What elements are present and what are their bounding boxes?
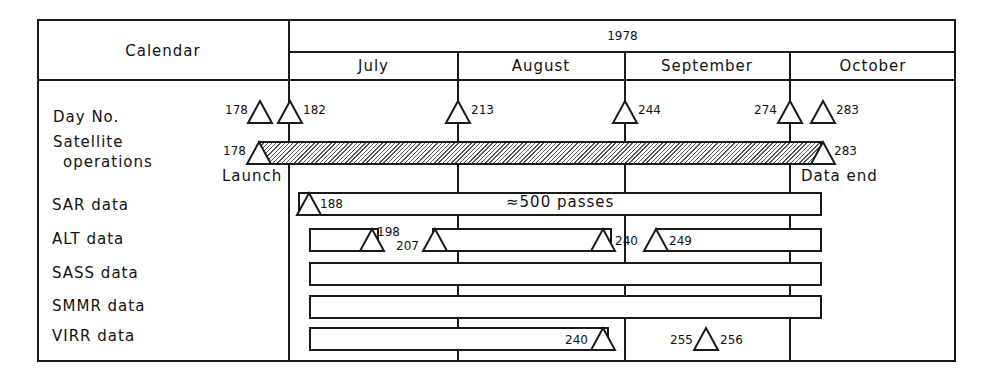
triangle-marker-icon [590,327,616,351]
month-july: July [290,59,457,74]
alt-gap2-start: 240 [615,235,638,247]
day-label-178: 178 [225,104,248,116]
triangle-marker-icon [643,228,669,252]
triangle-marker-icon [247,100,273,124]
day-label-274: 274 [754,104,777,116]
row-label-operations: operations [63,155,153,170]
day-label-244: 244 [638,104,661,116]
triangle-marker-icon [422,228,448,252]
triangle-marker-icon [810,100,836,124]
sass-data-bar [309,262,822,286]
alt-data-bar-2 [432,228,612,252]
day-label-213: 213 [471,104,494,116]
triangle-marker-icon [693,327,719,351]
alt-gap1-end: 207 [396,240,419,252]
row-label-sar: SAR data [52,198,129,213]
triangle-marker-icon [590,228,616,252]
triangle-marker-icon [277,100,303,124]
triangle-marker-icon [296,192,322,216]
row-label-satellite: Satellite [53,135,123,150]
day-label-283: 283 [836,104,859,116]
sar-passes-note: ≈500 passes [506,195,614,210]
header-bottom-line [37,79,956,81]
triangle-marker-icon [612,100,638,124]
satellite-start-day: 178 [223,145,246,157]
year-month-divider [289,51,956,53]
row-label-smmr: SMMR data [52,299,145,314]
virr-blip-end: 256 [720,334,743,346]
month-september: September [625,59,789,74]
triangle-marker-icon [445,100,471,124]
satellite-end-day: 283 [834,145,857,157]
month-august: August [458,59,624,74]
calendar-header: Calendar [37,44,289,59]
virr-blip-start: 255 [670,334,693,346]
triangle-marker-icon [777,100,803,124]
satellite-operations-bar [258,141,822,165]
row-label-alt: ALT data [52,232,124,247]
data-end-label: Data end [801,169,878,184]
virr-end-day: 240 [565,334,588,346]
data-end-triangle-icon [810,141,836,165]
row-label-day-no: Day No. [53,110,119,125]
smmr-data-bar [309,295,822,319]
month-october: October [790,59,956,74]
alt-gap2-end: 249 [669,235,692,247]
row-label-sass: SASS data [52,266,139,281]
day-label-182: 182 [303,104,326,116]
alt-gap1-start: 198 [377,226,400,238]
launch-triangle-icon [246,141,272,165]
row-label-virr: VIRR data [52,329,135,344]
sar-start-day: 188 [320,198,343,210]
virr-data-bar [309,327,609,351]
launch-label: Launch [222,169,282,184]
year-label: 1978 [289,30,956,42]
